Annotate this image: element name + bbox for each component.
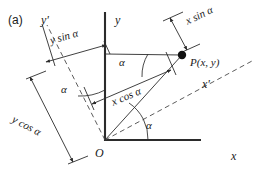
panel-label: (a) <box>8 14 23 26</box>
horizontal-projection-line <box>105 54 182 55</box>
angle-arc-left <box>78 90 105 96</box>
measure-tick-x-cos-alpha-start <box>84 87 94 110</box>
angle-label-left: α <box>61 84 67 95</box>
x-prime-axis-label: x' <box>202 78 210 90</box>
figure-container: (a) y x O y' x' P(x, y) α α α y sin α y … <box>0 0 261 181</box>
measure-tick-x-sin-alpha-start <box>163 12 183 21</box>
angle-label-upper: α <box>119 57 125 68</box>
angle-arc-upper <box>142 54 148 77</box>
measure-bar-y-sin-alpha <box>46 45 106 62</box>
y-prime-axis-label: y' <box>41 14 49 26</box>
angle-label-origin: α <box>146 120 152 131</box>
measure-tick-y-cos-alpha-start <box>26 71 46 79</box>
x-axis-label: x <box>231 150 236 162</box>
origin-label: O <box>95 147 104 159</box>
point-p-label: P(x, y) <box>190 57 219 68</box>
measure-bar-x-sin-alpha <box>170 18 187 50</box>
point-p-marker <box>178 51 186 59</box>
y-axis-label: y <box>115 14 120 26</box>
